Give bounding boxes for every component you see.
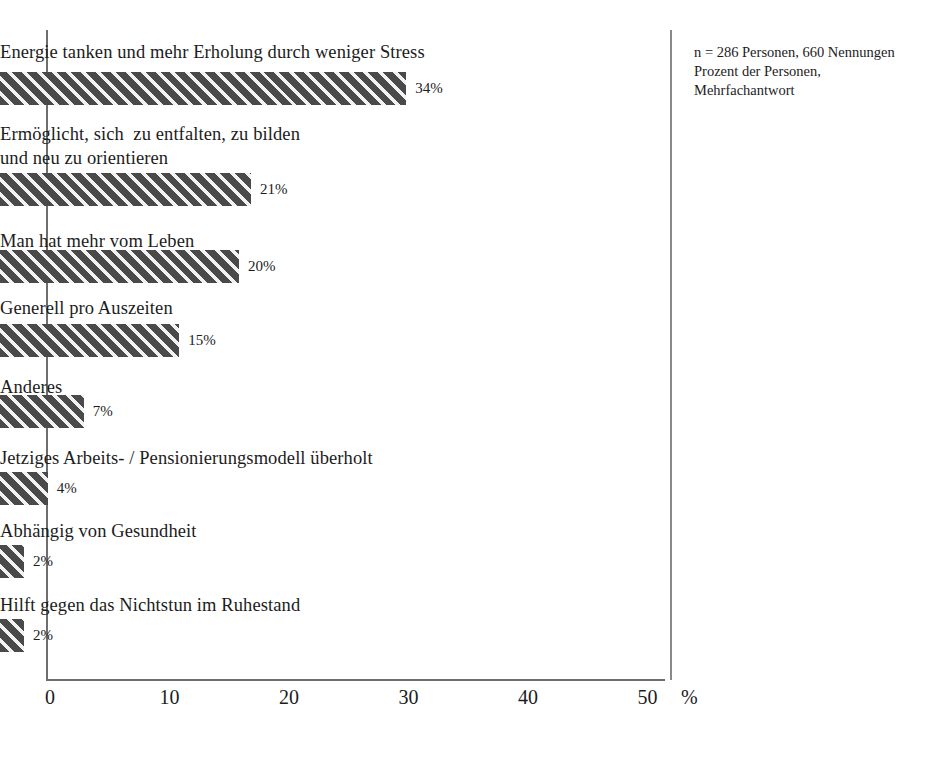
bar-category-label: Abhängig von Gesundheit (0, 519, 197, 543)
x-tick-label: 0 (45, 686, 55, 709)
x-tick-label: 30 (399, 686, 419, 709)
sample-size-line-1: n = 286 Personen, 660 Nennungen (694, 43, 934, 62)
bar-category-label: Generell pro Auszeiten (0, 296, 173, 320)
bar-value-label: 2% (33, 553, 53, 570)
x-axis-ticks: 01020304050 (0, 686, 940, 716)
bar-value-label: 21% (260, 181, 288, 198)
bar (0, 545, 24, 578)
panel-divider-line (670, 30, 672, 680)
bar (0, 395, 84, 428)
bar-row: 2% (0, 545, 53, 578)
bar (0, 250, 239, 283)
bar-row: 4% (0, 472, 77, 505)
bar-category-label: Hilft gegen das Nichtstun im Ruhestand (0, 593, 300, 617)
bar-category-label: Energie tanken und mehr Erholung durch w… (0, 40, 425, 64)
bar-value-label: 34% (415, 80, 443, 97)
bar-value-label: 4% (57, 480, 77, 497)
bar-row: 34% (0, 72, 443, 105)
sample-size-line-2: Prozent der Personen, (694, 62, 934, 81)
x-tick-label: 10 (160, 686, 180, 709)
x-tick-label: 50 (638, 686, 658, 709)
bar (0, 472, 48, 505)
sample-size-note: n = 286 Personen, 660 Nennungen Prozent … (694, 43, 934, 100)
bar (0, 619, 24, 652)
x-tick-label: 20 (279, 686, 299, 709)
bar-row: 15% (0, 324, 216, 357)
bar-row: 2% (0, 619, 53, 652)
bar (0, 72, 406, 105)
bar-row: 7% (0, 395, 113, 428)
bar-value-label: 15% (188, 332, 216, 349)
x-axis-unit-label: % (681, 686, 698, 709)
bar-value-label: 7% (93, 403, 113, 420)
bar-row: 21% (0, 173, 287, 206)
bar (0, 173, 251, 206)
bar-value-label: 20% (248, 258, 276, 275)
bar-row: 20% (0, 250, 276, 283)
bar-category-label: Jetziges Arbeits- / Pensionierungsmodell… (0, 446, 373, 470)
bar-category-label: Ermöglicht, sich zu entfalten, zu bilden… (0, 122, 300, 170)
bar-value-label: 2% (33, 627, 53, 644)
sample-size-line-3: Mehrfachantwort (694, 81, 934, 100)
chart-area: Energie tanken und mehr Erholung durch w… (0, 0, 940, 764)
x-tick-label: 40 (518, 686, 538, 709)
bar (0, 324, 179, 357)
bars-plot: Energie tanken und mehr Erholung durch w… (0, 0, 670, 680)
